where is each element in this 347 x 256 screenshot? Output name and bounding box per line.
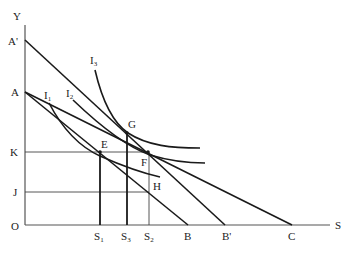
label-c: C — [288, 230, 295, 242]
label-b: B — [184, 230, 191, 242]
label-k: K — [10, 146, 18, 158]
label-g: G — [128, 118, 136, 130]
label-h: H — [153, 180, 161, 192]
label-s3: S3 — [121, 230, 131, 244]
label-f: F — [141, 156, 147, 168]
label-e: E — [101, 138, 108, 150]
point-g-dot — [125, 131, 129, 135]
label-i3: I3 — [90, 54, 98, 68]
point-e-dot — [98, 150, 102, 154]
label-i1: I1 — [44, 89, 52, 103]
indifference-curve-i3 — [95, 70, 200, 148]
budget-line-ac — [25, 92, 292, 225]
origin-label: O — [11, 220, 19, 232]
label-a-prime: A' — [8, 35, 18, 47]
budget-line-a-prime-b-prime — [25, 40, 225, 225]
label-a: A — [11, 86, 19, 98]
label-b-prime: B' — [222, 230, 231, 242]
label-s1: S1 — [94, 230, 104, 244]
indifference-curve-i2 — [73, 100, 205, 163]
label-s2: S2 — [144, 230, 154, 244]
indifference-curve-diagram: Y S O A' A K J S1 S3 S2 B B' C I1 I2 I3 … — [0, 0, 347, 256]
y-axis-label: Y — [13, 10, 21, 22]
point-f-dot — [146, 150, 150, 154]
x-axis-label: S — [335, 219, 341, 231]
label-j: J — [13, 186, 18, 198]
label-i2: I2 — [66, 87, 74, 101]
